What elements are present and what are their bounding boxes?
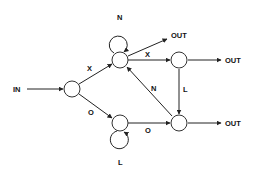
output-label-top: OUT (171, 31, 187, 40)
input-label: IN (13, 85, 21, 94)
edge-label-s0-s1: X (87, 64, 92, 73)
edge-label-s1-s2: X (145, 50, 150, 59)
edge-label-s2-s4: L (183, 85, 188, 94)
loop-label-s3: L (118, 158, 123, 167)
edge-s0-s1 (79, 64, 112, 84)
loop-label-s1: N (117, 13, 122, 22)
loop-s3 (110, 131, 128, 149)
state-diagram: IN X O N OUT X OUT L N L O OUT (0, 0, 255, 176)
edge-s4-s1 (127, 67, 172, 116)
edge-label-s3-s4: O (145, 126, 151, 135)
state-node-s0 (64, 81, 80, 97)
state-node-s1 (112, 52, 128, 68)
loop-s1 (109, 36, 127, 53)
edge-s0-s3 (79, 94, 112, 118)
output-label-middle: OUT (225, 56, 241, 65)
edge-label-s0-s3: O (88, 108, 94, 117)
state-node-s3 (112, 115, 128, 131)
state-node-s2 (171, 52, 187, 68)
edge-label-s4-s1: N (151, 84, 156, 93)
output-label-bottom: OUT (225, 119, 241, 128)
state-node-s4 (171, 115, 187, 131)
